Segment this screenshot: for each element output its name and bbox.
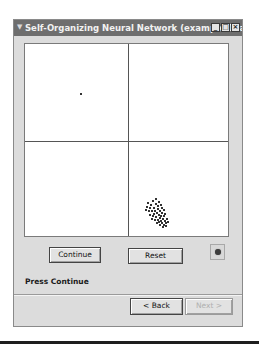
app-window: ▼ Self-Organizing Neural Network (exampl… [13,19,243,327]
neuron-point [158,201,160,203]
neuron-point [164,213,166,215]
vertical-divider [128,44,129,236]
status-light-icon [215,249,221,255]
neuron-point [160,204,162,206]
neuron-point [163,215,165,217]
neuron-point [150,204,152,206]
neuron-point [155,198,157,200]
neuron-point [163,209,165,211]
status-light-box [210,244,225,260]
bottom-rule [0,341,259,344]
neuron-point [162,226,164,228]
continue-button[interactable]: Continue [49,247,101,263]
neuron-point [151,210,153,212]
neuron-point [167,221,169,223]
neuron-point [149,207,151,209]
maximize-icon[interactable]: □ [221,23,230,32]
close-icon[interactable]: × [231,23,240,32]
app-icon[interactable]: ▼ [17,24,23,31]
neuron-point [151,218,153,220]
neuron-point [157,205,159,207]
separator [14,294,242,296]
status-text: Press Continue [25,277,89,286]
neuron-point [154,219,156,221]
neuron-point [149,214,151,216]
title-bar[interactable]: ▼ Self-Organizing Neural Network (exampl… [14,20,242,36]
network-canvas [24,43,229,237]
neuron-point [146,206,148,208]
neuron-point [161,212,163,214]
neuron-point [145,209,147,211]
reset-button[interactable]: Reset [128,248,183,264]
neuron-point [155,216,157,218]
neuron-point [147,202,149,204]
neuron-point [158,221,160,223]
window-title: Self-Organizing Neural Network (example … [25,20,242,36]
neuron-point [165,225,167,227]
next-button[interactable]: Next > [185,298,233,315]
neuron-point [159,217,161,219]
neuron-point [159,224,161,226]
back-button[interactable]: < Back [130,298,183,315]
minimize-icon[interactable]: _ [211,23,220,32]
neuron-point [153,207,155,209]
neuron-point [152,215,154,217]
window-controls: _ □ × [211,23,240,32]
horizontal-divider [25,141,228,142]
neuron-point [148,210,150,212]
neuron-point [152,200,154,202]
neuron-point [166,218,168,220]
neuron-point [80,93,82,95]
neuron-point [156,222,158,224]
